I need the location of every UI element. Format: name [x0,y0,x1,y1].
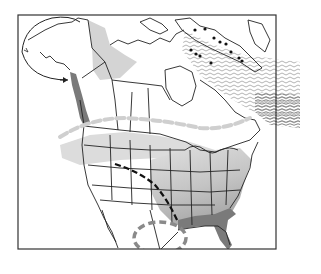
northern-light-range [88,20,137,80]
pacific-coast-dark-range [70,72,90,126]
range-map [0,0,321,274]
map-svg [0,0,321,274]
atlantic-wave-range [182,30,300,128]
arrowhead-icon [63,77,68,83]
eastern-gradient-range [150,148,252,225]
map-frame [18,15,276,249]
